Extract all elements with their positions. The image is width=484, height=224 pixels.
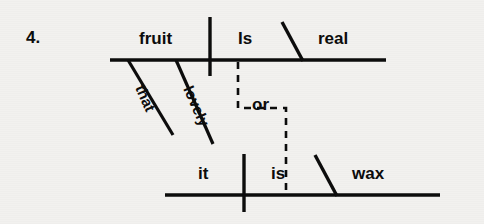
word-conjunction-or: or	[252, 96, 269, 113]
word-subject-fruit: fruit	[139, 30, 172, 47]
sentence-diagram: 4. fruit Is real that lovely or it is wa…	[0, 0, 484, 224]
word-predicate-adjective-real: real	[318, 30, 348, 47]
bottom-predicate-nominative-diagonal	[315, 155, 337, 196]
word-predicate-nominative-wax: wax	[352, 165, 384, 182]
exercise-number: 4.	[26, 29, 40, 46]
word-subject-it: it	[198, 165, 208, 182]
word-verb-is: Is	[238, 30, 252, 47]
word-verb-is-second: is	[271, 165, 285, 182]
top-predicate-adjective-diagonal	[282, 22, 303, 61]
